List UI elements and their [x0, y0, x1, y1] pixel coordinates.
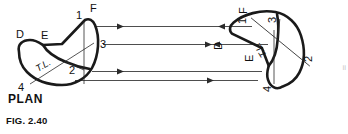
- right-label-2: 2: [302, 56, 314, 62]
- right-crescent-group: [227, 1, 314, 97]
- right-label-F: F: [237, 7, 249, 14]
- left-label-D: D: [16, 28, 24, 40]
- figure-2-40: D E F 1 2 3 4 T.L. F 1 3 2 4 D E T.L: [0, 0, 348, 134]
- figure-caption: FIG. 2.40: [6, 115, 47, 126]
- projection-arrow-1: [117, 24, 124, 30]
- technical-drawing-canvas: D E F 1 2 3 4 T.L. F 1 3 2 4 D E T.L: [0, 0, 348, 134]
- right-label-D: D: [212, 42, 224, 50]
- left-label-E: E: [41, 29, 48, 41]
- left-label-3: 3: [100, 38, 106, 50]
- right-label-3: 3: [266, 17, 278, 23]
- left-label-2: 2: [69, 64, 75, 76]
- right-crescent-labels: F 1 3 2 4 D E T.L.: [212, 7, 314, 92]
- projection-arrow-1b: [218, 24, 225, 30]
- left-crescent-group: D E F 1 2 3 4 T.L.: [16, 2, 106, 93]
- left-label-1: 1: [76, 9, 82, 21]
- left-label-F: F: [90, 2, 97, 14]
- projection-arrow-3: [117, 69, 124, 75]
- page-edge-mark: ii: [342, 63, 346, 72]
- left-crescent-outline: [19, 19, 99, 85]
- right-label-1: 1: [236, 18, 248, 24]
- right-label-E: E: [243, 55, 255, 62]
- right-label-4: 4: [261, 86, 273, 92]
- plan-caption: PLAN: [8, 92, 43, 106]
- projection-lines: [75, 24, 268, 84]
- projection-arrow-4: [207, 78, 214, 84]
- projection-arrow-2: [205, 42, 212, 48]
- right-crescent-outline: [227, 1, 314, 97]
